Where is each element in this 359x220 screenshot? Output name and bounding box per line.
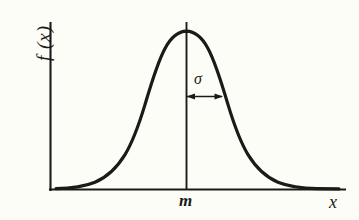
x-tick-label-mean: m xyxy=(179,192,192,209)
sigma-annotation-label: σ xyxy=(194,71,202,87)
x-axis-label: x xyxy=(329,193,337,211)
sigma-arrow-left-head xyxy=(187,93,196,99)
gaussian-figure: f (x) x m σ xyxy=(0,0,359,220)
sigma-arrow-right-head xyxy=(215,93,224,99)
y-axis-label: f (x) xyxy=(34,12,56,74)
gaussian-curve xyxy=(56,31,339,189)
